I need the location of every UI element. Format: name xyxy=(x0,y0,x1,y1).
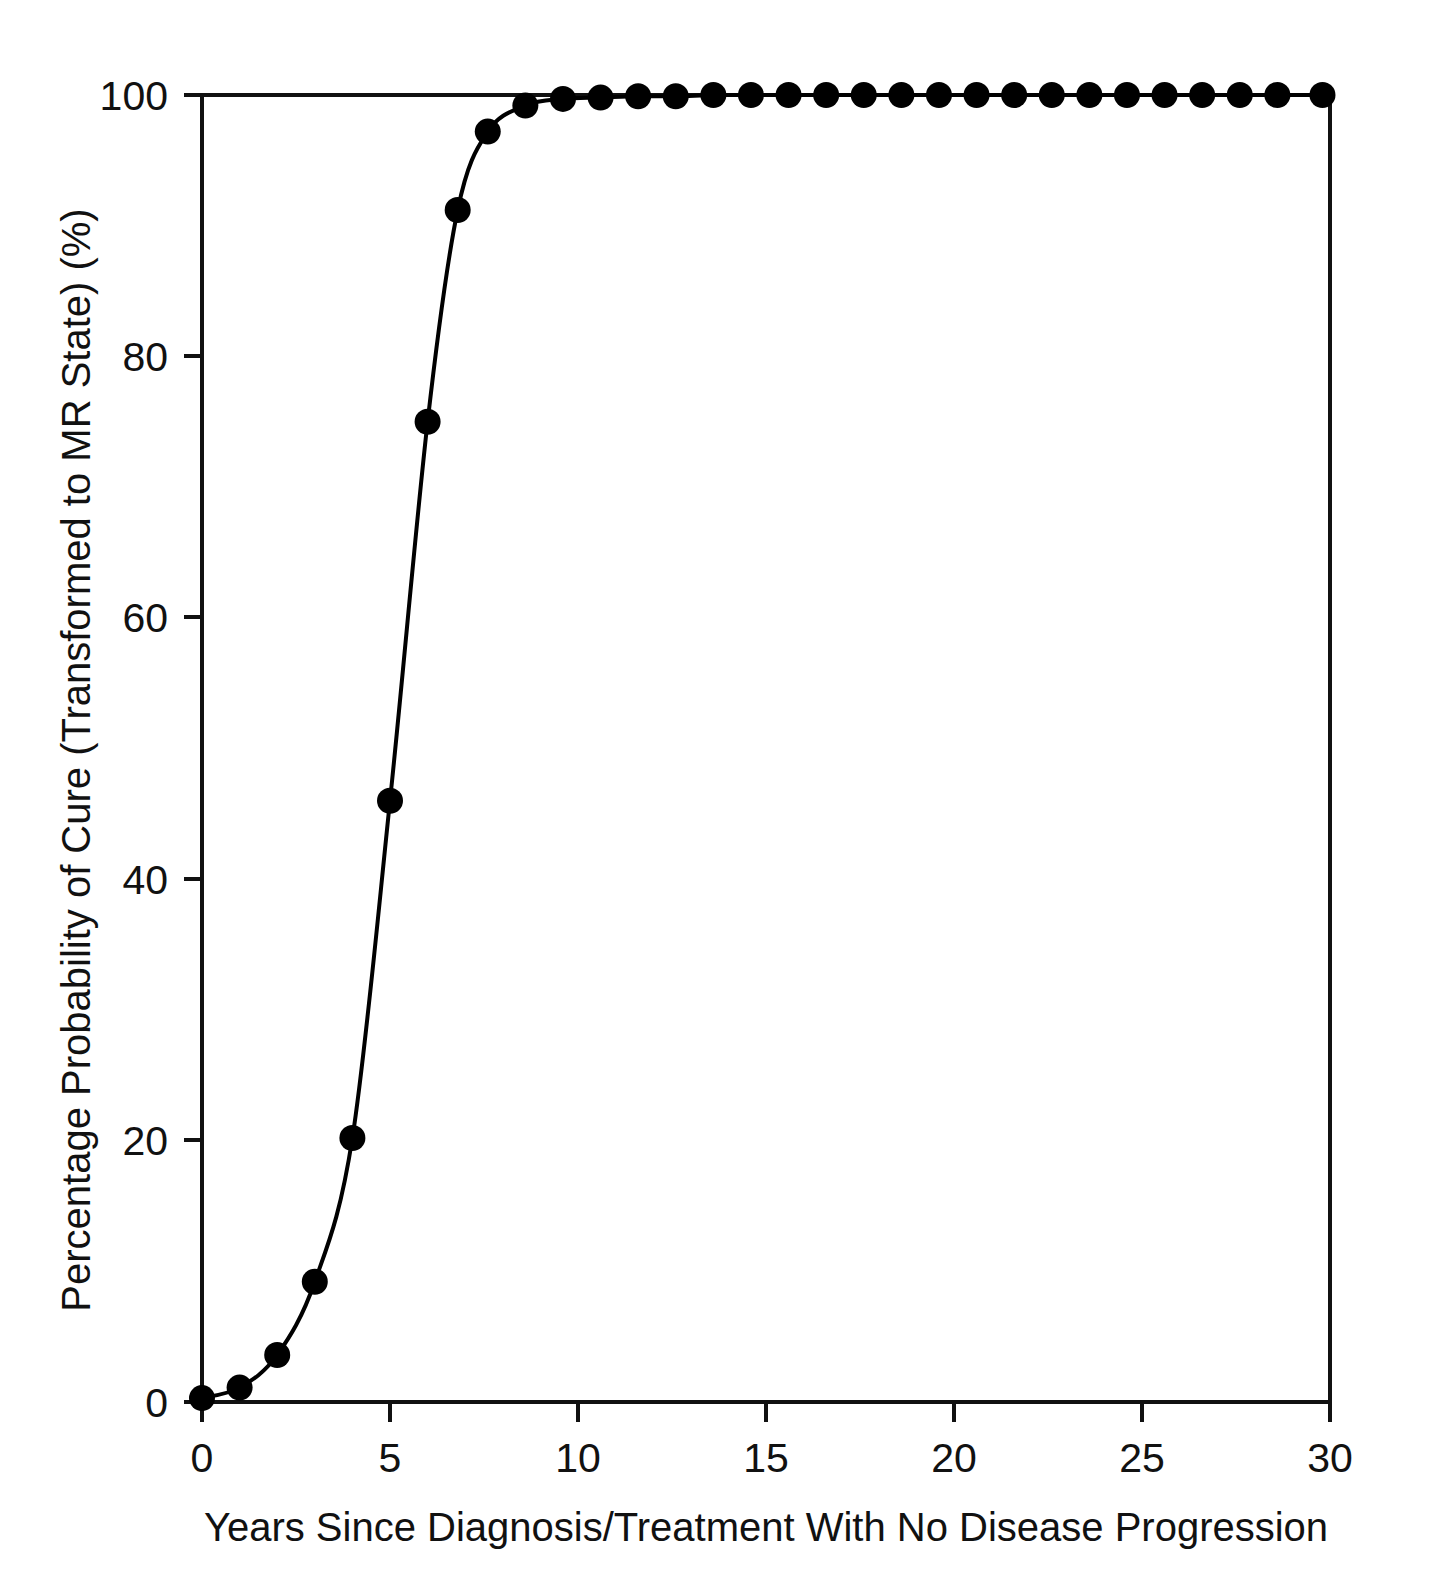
data-point xyxy=(1152,82,1178,108)
data-point xyxy=(888,82,914,108)
x-tick-label-15: 15 xyxy=(743,1435,789,1481)
data-point xyxy=(851,82,877,108)
data-point xyxy=(1189,82,1215,108)
data-point xyxy=(663,83,689,109)
y-tick-label-0: 0 xyxy=(145,1380,168,1426)
chart-background xyxy=(0,0,1430,1576)
data-point xyxy=(1227,82,1253,108)
data-point xyxy=(964,82,990,108)
x-tick-label-25: 25 xyxy=(1119,1435,1165,1481)
x-tick-label-30: 30 xyxy=(1307,1435,1353,1481)
y-tick-label-60: 60 xyxy=(122,595,168,641)
data-point xyxy=(1039,82,1065,108)
data-point xyxy=(415,409,441,435)
y-axis-title: Percentage Probability of Cure (Transfor… xyxy=(54,208,98,1311)
y-tick-label-80: 80 xyxy=(122,334,168,380)
x-tick-label-5: 5 xyxy=(379,1435,402,1481)
data-point xyxy=(227,1375,253,1401)
x-tick-label-10: 10 xyxy=(555,1435,601,1481)
sigmoid-cure-probability-chart: 100 80 60 40 20 0 0 5 10 15 20 25 30 xyxy=(0,0,1430,1576)
data-point xyxy=(700,82,726,108)
data-point xyxy=(189,1385,215,1411)
y-tick-label-20: 20 xyxy=(122,1118,168,1164)
x-tick-label-0: 0 xyxy=(191,1435,214,1481)
data-point xyxy=(264,1342,290,1368)
data-point xyxy=(512,92,538,118)
data-point xyxy=(776,82,802,108)
data-point xyxy=(302,1269,328,1295)
x-axis-title: Years Since Diagnosis/Treatment With No … xyxy=(204,1505,1328,1549)
data-point xyxy=(1001,82,1027,108)
chart-figure: 100 80 60 40 20 0 0 5 10 15 20 25 30 xyxy=(0,0,1430,1576)
data-point xyxy=(475,119,501,145)
data-point xyxy=(625,83,651,109)
data-point xyxy=(339,1125,365,1151)
data-point xyxy=(377,788,403,814)
data-point xyxy=(1309,82,1335,108)
data-point xyxy=(1076,82,1102,108)
data-point xyxy=(926,82,952,108)
data-point xyxy=(813,82,839,108)
y-tick-label-40: 40 xyxy=(122,857,168,903)
y-tick-label-100: 100 xyxy=(100,73,168,119)
x-tick-label-20: 20 xyxy=(931,1435,977,1481)
data-point xyxy=(445,197,471,223)
data-point xyxy=(1264,82,1290,108)
data-point xyxy=(550,86,576,112)
data-point xyxy=(738,82,764,108)
data-point xyxy=(588,85,614,111)
data-point xyxy=(1114,82,1140,108)
